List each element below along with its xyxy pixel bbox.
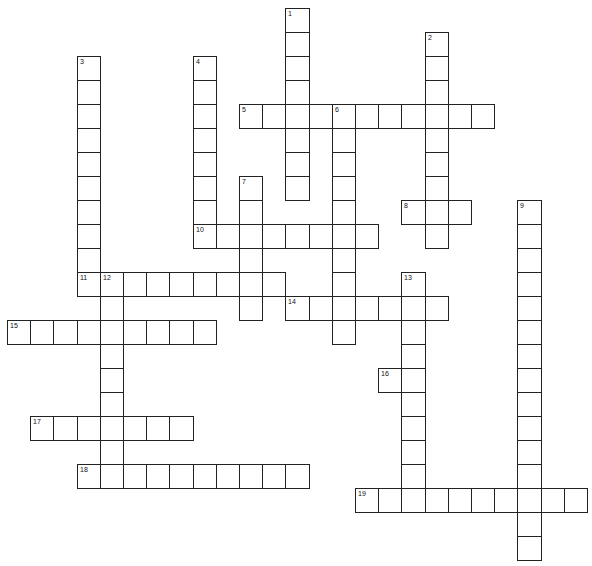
crossword-cell[interactable] — [332, 176, 356, 201]
crossword-cell[interactable] — [285, 56, 310, 81]
crossword-cell[interactable]: 4 — [193, 56, 217, 81]
crossword-cell[interactable] — [517, 440, 542, 465]
crossword-cell[interactable]: 11 — [77, 272, 101, 297]
crossword-cell[interactable] — [77, 320, 101, 345]
crossword-cell[interactable] — [332, 152, 356, 177]
crossword-cell[interactable]: 18 — [77, 464, 101, 489]
crossword-cell[interactable] — [448, 200, 472, 225]
crossword-cell[interactable] — [216, 272, 240, 297]
crossword-cell[interactable] — [332, 248, 356, 273]
crossword-cell[interactable] — [425, 176, 449, 201]
crossword-cell[interactable] — [77, 152, 101, 177]
crossword-cell[interactable] — [332, 320, 356, 345]
crossword-cell[interactable] — [193, 176, 217, 201]
crossword-cell[interactable] — [146, 416, 170, 441]
crossword-cell[interactable] — [193, 200, 217, 225]
crossword-cell[interactable] — [146, 272, 170, 297]
crossword-cell[interactable] — [401, 416, 426, 441]
crossword-cell[interactable] — [285, 152, 310, 177]
crossword-cell[interactable] — [193, 80, 217, 105]
crossword-cell[interactable]: 8 — [401, 200, 426, 225]
crossword-cell[interactable] — [77, 416, 101, 441]
crossword-cell[interactable] — [425, 128, 449, 153]
crossword-cell[interactable]: 5 — [239, 104, 263, 129]
crossword-cell[interactable] — [448, 104, 472, 129]
crossword-cell[interactable]: 9 — [517, 200, 542, 225]
crossword-cell[interactable] — [285, 464, 310, 489]
crossword-cell[interactable] — [378, 488, 402, 513]
crossword-cell[interactable] — [262, 272, 286, 297]
crossword-cell[interactable] — [169, 416, 194, 441]
crossword-cell[interactable] — [123, 464, 147, 489]
crossword-cell[interactable] — [332, 200, 356, 225]
crossword-cell[interactable] — [309, 104, 333, 129]
crossword-cell[interactable] — [309, 224, 333, 249]
crossword-cell[interactable] — [193, 104, 217, 129]
crossword-cell[interactable] — [494, 488, 518, 513]
crossword-cell[interactable] — [123, 320, 147, 345]
crossword-cell[interactable] — [425, 488, 449, 513]
crossword-cell[interactable] — [471, 104, 495, 129]
crossword-cell[interactable] — [425, 152, 449, 177]
crossword-cell[interactable] — [564, 488, 588, 513]
crossword-cell[interactable] — [425, 296, 449, 321]
crossword-cell[interactable] — [401, 464, 426, 489]
crossword-cell[interactable]: 17 — [30, 416, 54, 441]
crossword-cell[interactable] — [262, 224, 286, 249]
crossword-cell[interactable] — [309, 296, 333, 321]
crossword-cell[interactable] — [146, 320, 170, 345]
crossword-cell[interactable]: 2 — [425, 32, 449, 57]
crossword-cell[interactable] — [53, 416, 78, 441]
crossword-cell[interactable] — [239, 248, 263, 273]
crossword-cell[interactable] — [517, 272, 542, 297]
crossword-cell[interactable] — [355, 104, 379, 129]
crossword-cell[interactable] — [77, 200, 101, 225]
crossword-cell[interactable]: 19 — [355, 488, 379, 513]
crossword-cell[interactable] — [332, 224, 356, 249]
crossword-cell[interactable] — [100, 344, 124, 369]
crossword-cell[interactable] — [517, 392, 542, 417]
crossword-cell[interactable] — [285, 176, 310, 201]
crossword-cell[interactable] — [517, 320, 542, 345]
crossword-cell[interactable] — [169, 464, 194, 489]
crossword-cell[interactable]: 6 — [332, 104, 356, 129]
crossword-cell[interactable] — [332, 296, 356, 321]
crossword-cell[interactable] — [378, 296, 402, 321]
crossword-cell[interactable] — [216, 224, 240, 249]
crossword-cell[interactable] — [193, 464, 217, 489]
crossword-cell[interactable] — [401, 320, 426, 345]
crossword-cell[interactable] — [355, 224, 379, 249]
crossword-cell[interactable] — [448, 488, 472, 513]
crossword-cell[interactable] — [401, 440, 426, 465]
crossword-cell[interactable] — [401, 296, 426, 321]
crossword-cell[interactable] — [285, 224, 310, 249]
crossword-cell[interactable] — [239, 464, 263, 489]
crossword-cell[interactable] — [169, 272, 194, 297]
crossword-cell[interactable] — [100, 320, 124, 345]
crossword-cell[interactable] — [471, 488, 495, 513]
crossword-cell[interactable] — [285, 128, 310, 153]
crossword-cell[interactable] — [355, 296, 379, 321]
crossword-cell[interactable] — [77, 224, 101, 249]
crossword-cell[interactable] — [517, 224, 542, 249]
crossword-cell[interactable] — [517, 536, 542, 561]
crossword-cell[interactable]: 15 — [7, 320, 31, 345]
crossword-cell[interactable] — [193, 152, 217, 177]
crossword-cell[interactable] — [239, 224, 263, 249]
crossword-cell[interactable]: 10 — [193, 224, 217, 249]
crossword-cell[interactable] — [425, 200, 449, 225]
crossword-cell[interactable] — [239, 272, 263, 297]
crossword-cell[interactable] — [77, 128, 101, 153]
crossword-cell[interactable] — [77, 80, 101, 105]
crossword-cell[interactable] — [401, 104, 426, 129]
crossword-cell[interactable]: 3 — [77, 56, 101, 81]
crossword-cell[interactable] — [216, 464, 240, 489]
crossword-cell[interactable] — [262, 464, 286, 489]
crossword-cell[interactable] — [146, 464, 170, 489]
crossword-cell[interactable] — [517, 344, 542, 369]
crossword-cell[interactable] — [517, 368, 542, 393]
crossword-cell[interactable] — [425, 224, 449, 249]
crossword-cell[interactable] — [30, 320, 54, 345]
crossword-cell[interactable] — [123, 272, 147, 297]
crossword-cell[interactable] — [425, 104, 449, 129]
